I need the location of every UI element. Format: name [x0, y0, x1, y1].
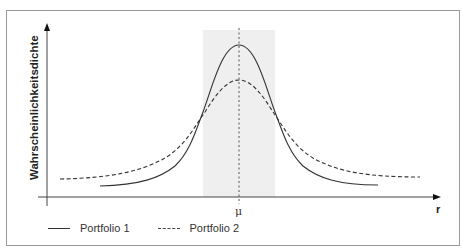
- legend-item-portfolio-2: Portfolio 2: [158, 222, 240, 234]
- solid-line-icon: [48, 228, 70, 229]
- legend: Portfolio 1 Portfolio 2: [48, 222, 267, 234]
- dashed-line-icon: [158, 228, 180, 229]
- legend-label: Portfolio 1: [80, 222, 130, 234]
- x-axis-label: r: [436, 203, 440, 215]
- y-axis-arrow-icon: [44, 23, 50, 31]
- legend-item-portfolio-1: Portfolio 1: [48, 222, 130, 234]
- legend-label: Portfolio 2: [190, 222, 240, 234]
- density-plot: [0, 0, 466, 252]
- x-axis-arrow-icon: [433, 194, 441, 200]
- mean-tick-label: μ: [235, 205, 242, 218]
- y-axis-label: Wahrscheinlichkeitsdichte: [28, 40, 40, 180]
